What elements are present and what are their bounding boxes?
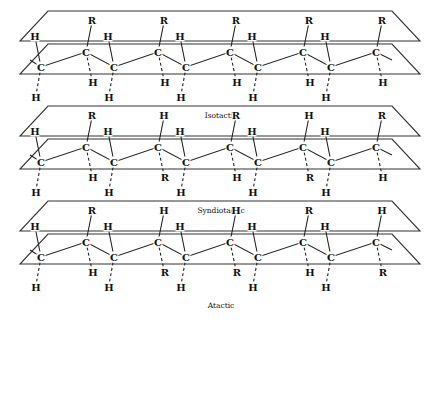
substituent-up: H <box>231 205 240 216</box>
substituent-down: H <box>248 282 257 293</box>
carbon-atom: C <box>37 62 45 73</box>
substituent-down: H <box>104 187 113 198</box>
substituent-down: R <box>233 267 242 278</box>
carbon-atom: C <box>182 157 190 168</box>
substituent-up: H <box>159 110 168 121</box>
carbon-atom: C <box>182 252 190 263</box>
substituent-down: H <box>232 172 241 183</box>
substituent-up: H <box>320 221 329 232</box>
carbon-atom: C <box>82 142 90 153</box>
substituent-down: H <box>176 282 185 293</box>
substituent-up: H <box>247 221 256 232</box>
substituent-down: H <box>31 92 40 103</box>
substituent-up: H <box>175 31 184 42</box>
substituent-down: H <box>378 77 387 88</box>
substituent-down: H <box>176 187 185 198</box>
carbon-atom: C <box>82 237 90 248</box>
panel-caption: Atactic <box>207 301 235 310</box>
substituent-down: H <box>232 77 241 88</box>
panel-isotactic: HHCHHCHHCHHCHHCRHCRHCRHCRHCRHCIsotactic <box>20 11 420 120</box>
carbon-atom: C <box>110 157 118 168</box>
lower-plane <box>20 139 420 169</box>
carbon-atom: C <box>254 252 262 263</box>
substituent-up: H <box>30 126 39 137</box>
substituent-up: H <box>304 110 313 121</box>
panel-atactic: HHCHHCHHCHHCHHCRHCHRCHRCRHCHRCAtactic <box>20 201 420 310</box>
substituent-down: H <box>305 77 314 88</box>
substituent-down: H <box>176 92 185 103</box>
substituent-up: R <box>378 15 387 26</box>
substituent-up: H <box>103 221 112 232</box>
substituent-up: H <box>320 126 329 137</box>
substituent-down: H <box>88 172 97 183</box>
substituent-up: H <box>159 205 168 216</box>
substituent-up: R <box>88 15 97 26</box>
substituent-up: H <box>247 31 256 42</box>
carbon-atom: C <box>254 62 262 73</box>
carbon-atom: C <box>226 142 234 153</box>
substituent-down: H <box>248 92 257 103</box>
carbon-atom: C <box>110 62 118 73</box>
substituent-up: H <box>175 126 184 137</box>
substituent-up: R <box>232 15 241 26</box>
substituent-down: R <box>306 172 315 183</box>
substituent-up: H <box>377 205 386 216</box>
carbon-atom: C <box>327 157 335 168</box>
substituent-down: H <box>104 282 113 293</box>
substituent-down: H <box>31 187 40 198</box>
substituent-down: H <box>31 282 40 293</box>
substituent-up: R <box>305 15 314 26</box>
carbon-atom: C <box>154 237 162 248</box>
lower-plane <box>20 44 420 74</box>
substituent-up: H <box>103 31 112 42</box>
substituent-down: H <box>321 92 330 103</box>
carbon-atom: C <box>182 62 190 73</box>
substituent-up: R <box>88 205 97 216</box>
substituent-down: H <box>160 77 169 88</box>
substituent-down: R <box>161 172 170 183</box>
substituent-down: R <box>161 267 170 278</box>
carbon-atom: C <box>154 142 162 153</box>
carbon-atom: C <box>154 47 162 58</box>
substituent-up: H <box>247 126 256 137</box>
carbon-atom: C <box>327 252 335 263</box>
substituent-down: H <box>321 282 330 293</box>
panel-syndiotactic: HHCHHCHHCHHCHHCRHCHRCRHCHRCRHCSyndiotact… <box>20 106 420 215</box>
substituent-down: H <box>248 187 257 198</box>
substituent-up: H <box>320 31 329 42</box>
substituent-down: H <box>88 267 97 278</box>
substituent-up: H <box>30 221 39 232</box>
carbon-atom: C <box>226 47 234 58</box>
carbon-atom: C <box>110 252 118 263</box>
substituent-down: H <box>88 77 97 88</box>
carbon-atom: C <box>299 237 307 248</box>
carbon-atom: C <box>372 142 380 153</box>
carbon-atom: C <box>254 157 262 168</box>
substituent-up: R <box>232 110 241 121</box>
substituent-up: R <box>88 110 97 121</box>
carbon-atom: C <box>299 142 307 153</box>
carbon-atom: C <box>226 237 234 248</box>
upper-plane <box>20 11 420 41</box>
carbon-atom: C <box>37 157 45 168</box>
carbon-atom: C <box>37 252 45 263</box>
substituent-up: H <box>175 221 184 232</box>
substituent-up: H <box>30 31 39 42</box>
substituent-up: R <box>160 15 169 26</box>
substituent-down: H <box>305 267 314 278</box>
carbon-atom: C <box>372 47 380 58</box>
lower-plane <box>20 234 420 264</box>
tacticity-diagram: HHCHHCHHCHHCHHCRHCRHCRHCRHCRHCIsotacticH… <box>0 0 442 409</box>
substituent-up: H <box>103 126 112 137</box>
substituent-down: H <box>378 172 387 183</box>
carbon-atom: C <box>299 47 307 58</box>
carbon-atom: C <box>372 237 380 248</box>
substituent-down: R <box>379 267 388 278</box>
substituent-up: R <box>305 205 314 216</box>
substituent-down: H <box>321 187 330 198</box>
substituent-down: H <box>104 92 113 103</box>
carbon-atom: C <box>82 47 90 58</box>
substituent-up: R <box>378 110 387 121</box>
carbon-atom: C <box>327 62 335 73</box>
